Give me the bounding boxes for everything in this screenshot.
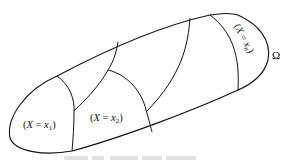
partition-boundary — [57, 76, 74, 151]
partition-diagram: (X = x1) (X = x2) (X = xn) Ω — [0, 0, 293, 162]
diagram-canvas: (X = x1) (X = x2) (X = xn) Ω — [0, 0, 293, 162]
omega-label: Ω — [272, 49, 280, 61]
partition-label-x2: (X = x2) — [90, 112, 123, 125]
partition-boundary — [74, 42, 118, 111]
sample-space-outline — [9, 14, 268, 154]
faint-caption — [64, 156, 196, 160]
partition-label-x1: (X = x1) — [23, 119, 56, 132]
